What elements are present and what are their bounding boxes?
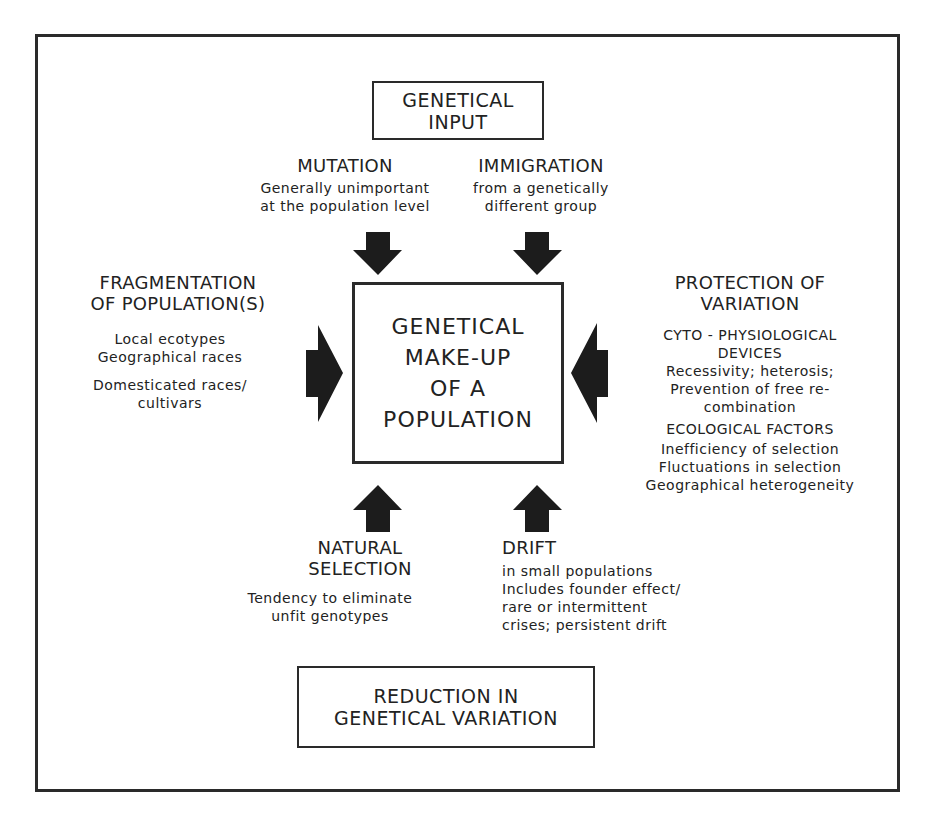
reduction-variation-box: REDUCTION IN GENETICAL VARIATION: [297, 666, 595, 748]
drift-desc-line: Includes founder effect/: [502, 580, 722, 598]
selection-title-line: SELECTION: [260, 558, 460, 579]
protection-section-title: CYTO - PHYSIOLOGICAL: [612, 326, 888, 344]
protection-item: Recessivity; heterosis;: [612, 362, 888, 380]
mutation-desc-line: Generally unimportant: [245, 179, 445, 197]
mutation-block: MUTATION Generally unimportant at the po…: [245, 155, 445, 215]
natural-selection-block: NATURAL SELECTION Tendency to eliminate …: [260, 537, 460, 625]
mutation-desc-line: at the population level: [245, 197, 445, 215]
fragmentation-arrow-right-icon: [306, 325, 343, 422]
protection-item: Inefficiency of selection: [612, 440, 888, 458]
reduction-box-line: GENETICAL VARIATION: [334, 707, 558, 729]
reduction-box-line: REDUCTION IN: [373, 685, 518, 707]
drift-desc-line: in small populations: [502, 562, 722, 580]
protection-item: Fluctuations in selection: [612, 458, 888, 476]
fragmentation-item: Local ecotypes: [60, 330, 280, 348]
drift-arrow-up-icon: [513, 485, 562, 532]
center-box-line: OF A: [430, 373, 486, 404]
immigration-block: IMMIGRATION from a genetically different…: [441, 155, 641, 215]
drift-block: DRIFT in small populations Includes foun…: [502, 537, 722, 634]
protection-item: Geographical heterogeneity: [612, 476, 888, 494]
fragmentation-title-line: FRAGMENTATION: [68, 272, 288, 293]
fragmentation-item: cultivars: [60, 394, 280, 412]
protection-section-title: DEVICES: [612, 344, 888, 362]
mutation-title: MUTATION: [245, 155, 445, 176]
input-box-line: INPUT: [428, 111, 487, 133]
selection-arrow-up-icon: [353, 485, 402, 532]
center-box-line: POPULATION: [383, 404, 533, 435]
fragmentation-title-line: OF POPULATION(S): [68, 293, 288, 314]
fragmentation-item: Domesticated races/: [60, 376, 280, 394]
genetical-input-box: GENETICAL INPUT: [372, 81, 544, 140]
center-box-line: GENETICAL: [392, 311, 525, 342]
immigration-arrow-down-icon: [513, 232, 562, 275]
protection-item: combination: [612, 398, 888, 416]
selection-title-line: NATURAL: [260, 537, 460, 558]
genetical-makeup-box: GENETICAL MAKE-UP OF A POPULATION: [352, 282, 564, 464]
protection-block: PROTECTION OF VARIATION CYTO - PHYSIOLOG…: [612, 272, 888, 494]
selection-desc-line: Tendency to eliminate: [220, 589, 440, 607]
immigration-title: IMMIGRATION: [441, 155, 641, 176]
input-box-line: GENETICAL: [402, 89, 514, 111]
fragmentation-block: FRAGMENTATION OF POPULATION(S) Local eco…: [68, 272, 288, 412]
drift-title: DRIFT: [502, 537, 722, 558]
selection-desc-line: unfit genotypes: [220, 607, 440, 625]
fragmentation-item: Geographical races: [60, 348, 280, 366]
protection-item: Prevention of free re-: [612, 380, 888, 398]
center-box-line: MAKE-UP: [405, 342, 512, 373]
immigration-desc-line: different group: [441, 197, 641, 215]
protection-title-line: PROTECTION OF: [612, 272, 888, 293]
protection-section-title: ECOLOGICAL FACTORS: [612, 420, 888, 438]
drift-desc-line: rare or intermittent: [502, 598, 722, 616]
drift-desc-line: crises; persistent drift: [502, 616, 722, 634]
protection-title-line: VARIATION: [612, 293, 888, 314]
immigration-desc-line: from a genetically: [441, 179, 641, 197]
mutation-arrow-down-icon: [353, 232, 402, 275]
protection-arrow-left-icon: [571, 323, 608, 423]
